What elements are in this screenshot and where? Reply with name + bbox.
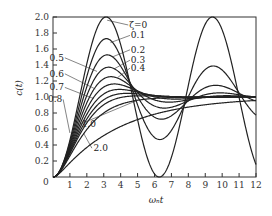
zeta-label: 0.5	[50, 53, 65, 63]
x-tick-label: 8	[185, 180, 191, 190]
zeta-label: 0.7	[50, 82, 65, 92]
x-tick-label: 2	[84, 180, 90, 190]
x-tick-label: 3	[101, 180, 107, 190]
x-tick-label: 6	[152, 180, 158, 190]
curve-zeta-0.8	[53, 96, 256, 177]
x-tick-label: 10	[216, 180, 228, 190]
curve-zeta-0.1	[53, 39, 256, 177]
zeta-label: 0.2	[131, 45, 145, 55]
response-curves	[53, 17, 256, 177]
x-tick-label: 1	[67, 180, 73, 190]
y-tick-label: 0.8	[35, 108, 50, 118]
y-tick-label: 0.4	[35, 140, 50, 150]
x-tick-label: 12	[250, 180, 261, 190]
y-tick-label: 2.0	[35, 12, 50, 22]
zeta-label: 0.8	[48, 94, 63, 104]
x-axis-ticks: 123456789101112	[67, 173, 262, 190]
x-tick-label: 7	[169, 180, 175, 190]
y-tick-label: 1.4	[35, 60, 50, 70]
zeta-label: 0.1	[131, 30, 145, 40]
x-tick-label: 5	[135, 180, 141, 190]
y-tick-label: 0.6	[35, 124, 50, 134]
zeta-label: ζ=0	[129, 20, 147, 30]
x-tick-label: 11	[233, 180, 244, 190]
y-axis-title: c(t)	[14, 80, 24, 96]
origin-label: 0	[43, 177, 49, 187]
y-tick-label: 1.2	[35, 76, 49, 86]
x-axis-title: ωₙt	[149, 195, 164, 205]
y-tick-label: 1.6	[35, 44, 50, 54]
zeta-label: 0.4	[131, 63, 146, 73]
y-tick-label: 1.8	[35, 28, 50, 38]
step-response-chart: 0.20.40.60.81.01.21.41.61.82.0 123456789…	[0, 0, 272, 216]
x-tick-label: 4	[118, 180, 124, 190]
y-tick-label: 0.2	[35, 156, 49, 166]
zeta-label: 2.0	[94, 143, 109, 153]
zeta-label: 0.6	[50, 69, 65, 79]
x-tick-label: 9	[202, 180, 208, 190]
